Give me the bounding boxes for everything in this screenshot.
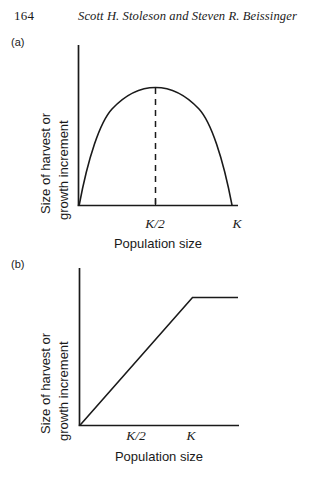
- running-head-title: Scott H. Stoleson and Steven R. Beissing…: [78, 8, 328, 24]
- running-head: 164 Scott H. Stoleson and Steven R. Beis…: [0, 8, 335, 28]
- x-axis-label-b: Population size: [79, 449, 239, 465]
- page-number: 164: [14, 8, 34, 24]
- figure-panel-a: (a) Size of harvest or growth increment …: [0, 30, 335, 252]
- figure-panel-b: (b) Size of harvest or growth increment …: [0, 253, 335, 484]
- x-tick-label-k-half-a: K/2: [130, 216, 180, 232]
- x-tick-label-k-a: K: [212, 216, 262, 232]
- x-axis-label-a: Population size: [78, 236, 238, 252]
- figure-page: 164 Scott H. Stoleson and Steven R. Beis…: [0, 0, 335, 484]
- x-tick-label-k-b: K: [166, 428, 216, 444]
- x-tick-label-k-half-b: K/2: [111, 428, 161, 444]
- curve-ramp-plateau-b: [80, 298, 238, 426]
